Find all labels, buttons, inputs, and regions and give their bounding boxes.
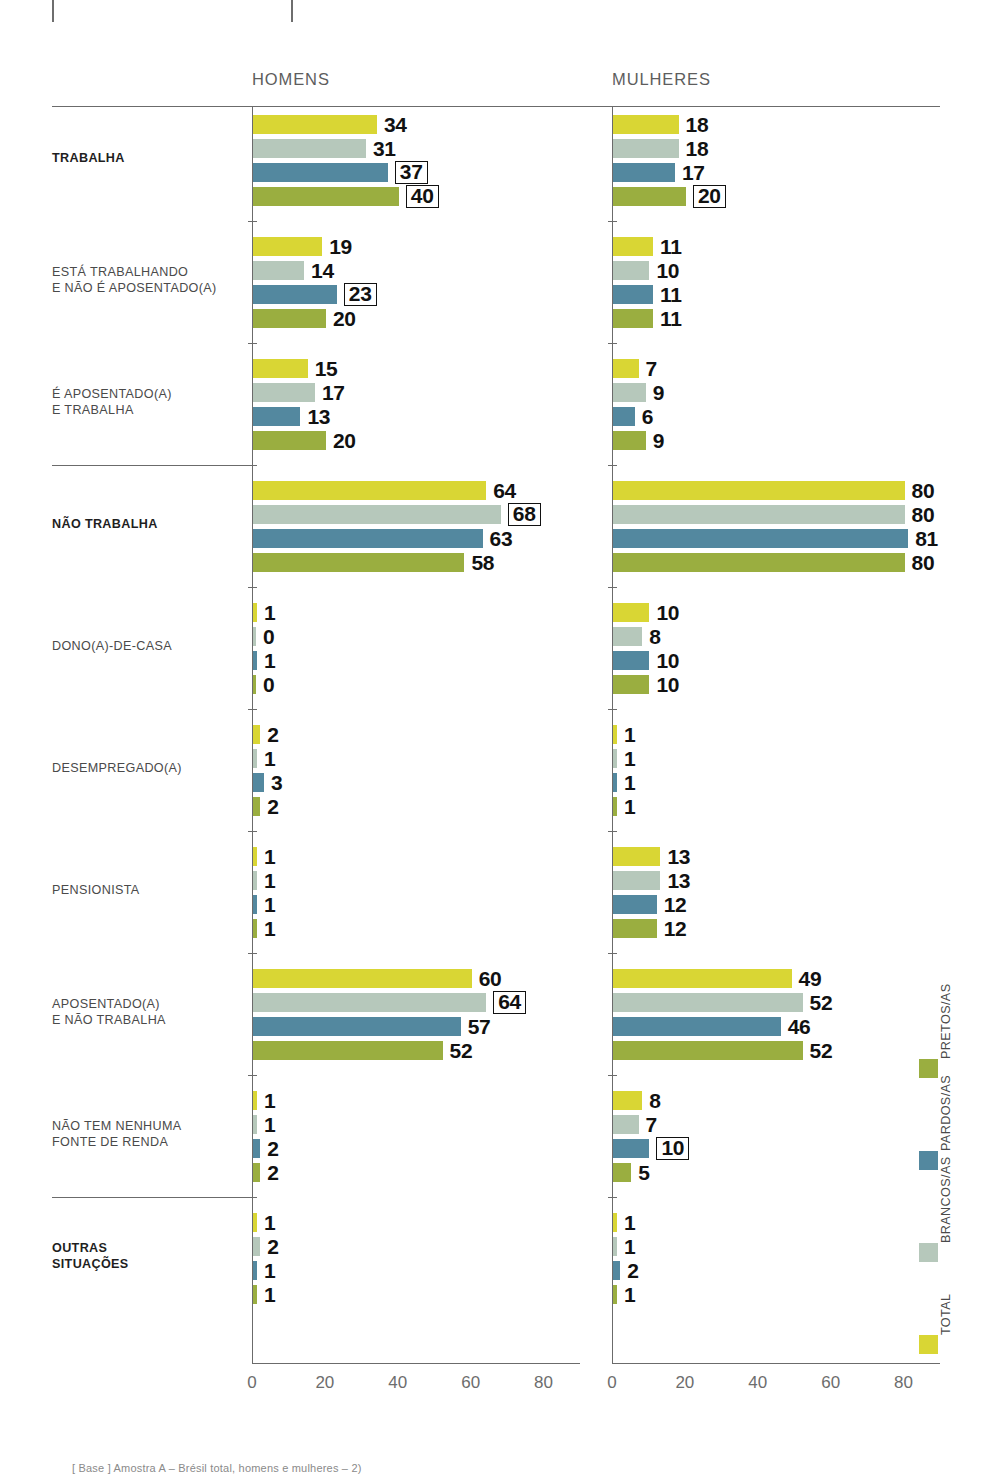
bar-value-mulheres-4-3: 10 [656, 675, 679, 694]
bar-value-homens-2-1: 17 [322, 383, 345, 402]
bar-value-homens-8-1: 1 [264, 1115, 275, 1134]
bar-mulheres-0-1 [613, 139, 679, 158]
bar-homens-8-3 [253, 1163, 260, 1182]
bar-value-homens-5-2: 3 [271, 773, 282, 792]
chart-legend: TOTALBRANCOS/ASPARDOS/ASPRETOS/AS [905, 975, 975, 1355]
bar-value-mulheres-8-3: 5 [638, 1163, 649, 1182]
category-label-0: TRABALHA [52, 151, 242, 167]
bar-value-homens-1-2: 23 [344, 283, 377, 306]
x-tick-label: 0 [607, 1373, 616, 1393]
bar-value-mulheres-5-1: 1 [624, 749, 635, 768]
bar-value-homens-8-3: 2 [267, 1163, 278, 1182]
category-tick [608, 709, 617, 710]
category-tick [248, 465, 257, 466]
bar-homens-9-1 [253, 1237, 260, 1256]
bar-mulheres-7-2 [613, 1017, 781, 1036]
bar-homens-6-1 [253, 871, 257, 890]
section-separator-rule [52, 1197, 252, 1198]
category-label-6: PENSIONISTA [52, 883, 242, 899]
bar-homens-9-3 [253, 1285, 257, 1304]
bar-value-mulheres-2-1: 9 [653, 383, 664, 402]
category-label-7: APOSENTADO(A)E NÃO TRABALHA [52, 997, 242, 1028]
bar-homens-1-3 [253, 309, 326, 328]
category-label-1: ESTÁ TRABALHANDOE NÃO É APOSENTADO(A) [52, 265, 242, 296]
category-tick [248, 343, 257, 344]
bar-value-homens-6-2: 1 [264, 895, 275, 914]
bar-homens-1-0 [253, 237, 322, 256]
bar-value-homens-6-1: 1 [264, 871, 275, 890]
bar-value-homens-1-3: 20 [333, 309, 356, 328]
bar-value-mulheres-3-0: 80 [912, 481, 935, 500]
bar-homens-2-1 [253, 383, 315, 402]
bar-homens-5-0 [253, 725, 260, 744]
bar-homens-3-0 [253, 481, 486, 500]
bar-value-mulheres-8-2: 10 [656, 1137, 689, 1160]
bar-value-mulheres-1-0: 11 [660, 237, 682, 256]
bar-value-mulheres-0-0: 18 [686, 115, 709, 134]
bar-homens-7-1 [253, 993, 486, 1012]
bar-value-homens-4-1: 0 [263, 627, 274, 646]
bar-value-mulheres-4-1: 8 [649, 627, 660, 646]
section-separator-rule [52, 465, 252, 466]
bar-value-mulheres-7-2: 46 [788, 1017, 811, 1036]
bar-mulheres-4-0 [613, 603, 649, 622]
x-tick-label: 20 [315, 1373, 334, 1393]
category-label-8: NÃO TEM NENHUMAFONTE DE RENDA [52, 1119, 242, 1150]
bar-mulheres-3-2 [613, 529, 908, 548]
bar-value-mulheres-1-2: 11 [660, 285, 682, 304]
bar-homens-9-0 [253, 1213, 257, 1232]
bar-mulheres-2-0 [613, 359, 639, 378]
legend-swatch-1 [919, 1243, 938, 1262]
category-label-3: NÃO TRABALHA [52, 517, 242, 533]
bar-value-mulheres-2-0: 7 [646, 359, 657, 378]
legend-swatch-0 [919, 1335, 938, 1354]
bar-homens-4-0 [253, 603, 257, 622]
bar-mulheres-3-0 [613, 481, 905, 500]
bar-value-homens-2-3: 20 [333, 431, 356, 450]
bar-value-mulheres-6-1: 13 [667, 871, 690, 890]
category-tick [608, 221, 617, 222]
bar-mulheres-1-0 [613, 237, 653, 256]
bar-mulheres-4-2 [613, 651, 649, 670]
bar-value-mulheres-8-1: 7 [646, 1115, 657, 1134]
bar-value-homens-7-2: 57 [468, 1017, 491, 1036]
bar-value-mulheres-4-2: 10 [656, 651, 679, 670]
bar-value-homens-9-2: 1 [264, 1261, 275, 1280]
bar-value-mulheres-7-1: 52 [810, 993, 833, 1012]
x-tick-label: 0 [247, 1373, 256, 1393]
bar-value-mulheres-0-3: 20 [693, 185, 726, 208]
bar-value-homens-3-1: 68 [508, 503, 541, 526]
bar-mulheres-7-3 [613, 1041, 803, 1060]
bar-value-mulheres-5-0: 1 [624, 725, 635, 744]
category-tick [608, 465, 617, 466]
top-rule [52, 106, 940, 107]
bar-value-homens-2-2: 13 [307, 407, 330, 426]
legend-label-0: TOTAL [939, 1294, 953, 1335]
bar-mulheres-3-1 [613, 505, 905, 524]
bar-value-homens-1-0: 19 [329, 237, 352, 256]
bar-mulheres-1-1 [613, 261, 649, 280]
bar-value-homens-9-0: 1 [264, 1213, 275, 1232]
x-tick-label: 20 [675, 1373, 694, 1393]
bar-homens-5-1 [253, 749, 257, 768]
bar-mulheres-4-3 [613, 675, 649, 694]
category-tick [248, 221, 257, 222]
bar-value-mulheres-7-0: 49 [799, 969, 822, 988]
bar-homens-6-3 [253, 919, 257, 938]
legend-swatch-3 [919, 1059, 938, 1078]
bar-homens-8-0 [253, 1091, 257, 1110]
bar-value-homens-9-1: 2 [267, 1237, 278, 1256]
bar-homens-1-1 [253, 261, 304, 280]
bar-value-homens-0-3: 40 [406, 185, 439, 208]
bar-value-homens-3-3: 58 [471, 553, 494, 572]
bar-mulheres-9-0 [613, 1213, 617, 1232]
bar-homens-6-0 [253, 847, 257, 866]
bar-value-mulheres-9-1: 1 [624, 1237, 635, 1256]
bar-value-homens-7-3: 52 [450, 1041, 473, 1060]
x-tick-label: 40 [388, 1373, 407, 1393]
bar-mulheres-5-1 [613, 749, 617, 768]
legend-label-3: PRETOS/AS [939, 984, 953, 1059]
bar-value-mulheres-4-0: 10 [656, 603, 679, 622]
bar-mulheres-6-0 [613, 847, 660, 866]
bar-mulheres-2-3 [613, 431, 646, 450]
